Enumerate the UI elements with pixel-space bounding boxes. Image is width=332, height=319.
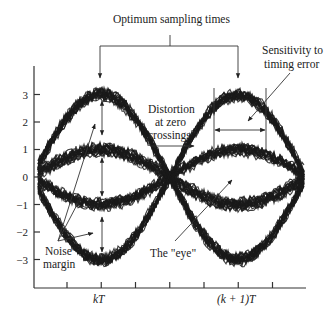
label-distortion-line3: crossings [148, 129, 191, 142]
eye-diagram-figure: Optimum sampling times Sensitivity to ti… [0, 0, 332, 319]
y-tick-label: 0 [12, 171, 28, 183]
label-distortion-line1: Distortion [148, 103, 195, 116]
noise-pointer-1 [58, 124, 95, 241]
label-sensitivity-line2: timing error [264, 58, 319, 71]
y-tick-label: 1 [12, 143, 28, 155]
label-noise-line2: margin [43, 258, 75, 271]
y-tick-label: 3 [12, 89, 28, 101]
x-tick-label-kT: kT [93, 293, 105, 305]
y-ticks [34, 95, 40, 260]
y-tick-label: −2 [12, 226, 28, 238]
label-sensitivity-line1: Sensitivity to [262, 44, 323, 57]
x-tick-label-k1T: (k + 1)T [217, 293, 255, 305]
y-tick-label: −1 [12, 199, 28, 211]
y-tick-label: −3 [12, 254, 28, 266]
label-optimum-sampling: Optimum sampling times [113, 13, 230, 26]
label-noise-line1: Noise [45, 245, 72, 258]
label-the-eye: The "eye" [150, 247, 196, 260]
x-ticks [67, 282, 273, 288]
label-distortion-line2: at zero [155, 116, 186, 129]
y-tick-label: 2 [12, 116, 28, 128]
